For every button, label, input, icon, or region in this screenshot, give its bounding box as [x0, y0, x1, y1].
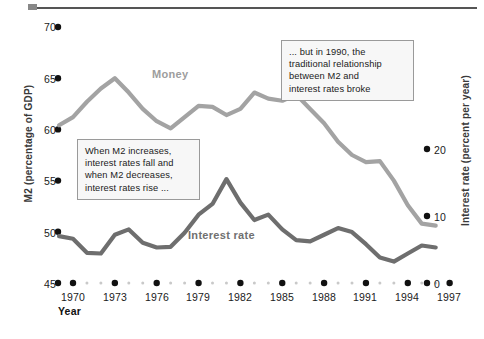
ytick-dot-right-20 [424, 146, 430, 152]
figure-container: 70 65 60 55 50 45 20 10 0 1970 1973 1976… [0, 0, 484, 339]
xtick-dot-1985 [279, 280, 285, 286]
xtick-minor-dot-1983 [253, 282, 256, 285]
xtick-minor-dot-1971 [85, 282, 88, 285]
xtick-minor-dot-1977 [169, 282, 172, 285]
xtick-dot-1973 [112, 280, 118, 286]
xtick-dot-1970 [70, 280, 76, 286]
ytick-label-right-1: 10 [434, 211, 460, 223]
xtick-minor-dot-1987 [309, 282, 312, 285]
xtick-label-1997: 1997 [429, 291, 469, 303]
ytick-label-left-5: 45 [30, 278, 56, 290]
x-axis-title: Year [58, 305, 81, 317]
xtick-label-1991: 1991 [345, 291, 385, 303]
annotation-left-line-1: interest rates fall and [85, 157, 192, 169]
xtick-dot-1979 [195, 280, 201, 286]
ytick-label-left-3: 55 [30, 175, 56, 187]
annotation-right-line-3: interest rates broke [289, 83, 406, 95]
xtick-minor-dot-1980 [211, 282, 214, 285]
xtick-minor-dot-1975 [141, 282, 144, 285]
xtick-dot-1982 [237, 280, 243, 286]
xtick-label-1988: 1988 [304, 291, 344, 303]
ytick-label-right-0: 20 [434, 144, 460, 156]
xtick-label-1976: 1976 [137, 291, 177, 303]
xtick-label-1985: 1985 [262, 291, 302, 303]
xtick-dot-1994 [405, 280, 411, 286]
ytick-label-left-4: 50 [30, 227, 56, 239]
xtick-minor-dot-1990 [351, 282, 354, 285]
annotation-left-line-2: when M2 decreases, [85, 169, 192, 181]
xtick-label-1970: 1970 [53, 291, 93, 303]
annotation-right-line-0: ... but in 1990, the [289, 46, 406, 58]
annotation-left-line-0: When M2 increases, [85, 145, 192, 157]
ytick-dot-right-10 [424, 213, 430, 219]
xtick-dot-1991 [363, 280, 369, 286]
ytick-dot-right-0 [424, 280, 430, 286]
annotation-right-line-1: traditional relationship [289, 58, 406, 70]
ytick-label-left-1: 65 [30, 73, 56, 85]
xtick-minor-dot-1974 [127, 282, 130, 285]
y-axis-left-title: M2 (percentage of GDP) [23, 64, 34, 224]
annotation-right-line-2: between M2 and [289, 70, 406, 82]
xtick-label-1979: 1979 [178, 291, 218, 303]
xtick-minor-dot-1989 [337, 282, 340, 285]
xtick-minor-dot-1995 [420, 282, 423, 285]
xtick-label-1973: 1973 [95, 291, 135, 303]
xtick-minor-dot-1992 [378, 282, 381, 285]
annotation-box-left: When M2 increases, interest rates fall a… [77, 139, 200, 200]
xtick-label-1982: 1982 [220, 291, 260, 303]
xtick-minor-dot-1978 [183, 282, 186, 285]
xtick-label-1994: 1994 [387, 291, 427, 303]
y-axis-right-title: Interest rate (percent per year) [460, 56, 471, 246]
xtick-minor-dot-1981 [225, 282, 228, 285]
xtick-minor-dot-1986 [295, 282, 298, 285]
y-axis-right-dots [424, 146, 430, 286]
xtick-dot-1988 [321, 280, 327, 286]
xtick-minor-dot-1993 [392, 282, 395, 285]
ytick-label-left-0: 70 [30, 21, 56, 33]
xtick-minor-dot-1972 [99, 282, 102, 285]
ytick-label-left-2: 60 [30, 124, 56, 136]
x-axis-minor-dots [85, 282, 437, 285]
xtick-minor-dot-1984 [267, 282, 270, 285]
xtick-dot-1976 [154, 280, 160, 286]
annotation-box-right: ... but in 1990, the traditional relatio… [281, 40, 414, 101]
series-label-interest: Interest rate [188, 229, 255, 241]
series-label-money: Money [152, 68, 188, 80]
ytick-label-right-2: 0 [434, 278, 460, 290]
annotation-left-line-3: interest rates rise ... [85, 182, 192, 194]
